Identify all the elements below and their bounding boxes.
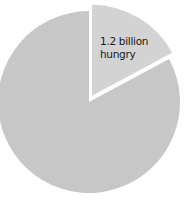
hungry-label-line1: 1.2 billion [100,35,148,47]
hungry-label-line2: hungry [100,48,135,60]
pie-chart: 1.2 billion hungry [0,0,184,201]
